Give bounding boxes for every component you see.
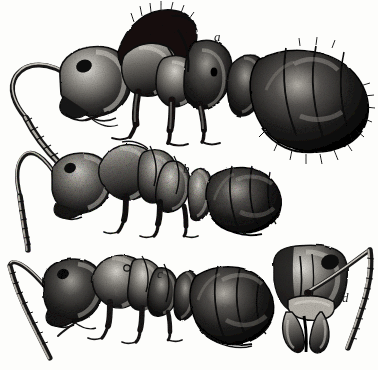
- figure-label-c: c: [157, 267, 163, 280]
- figure-label-b: b: [183, 162, 190, 175]
- ant-plate-drawing: [0, 0, 378, 370]
- illustration-plate: a b c d: [0, 0, 378, 370]
- figure-label-d: d: [342, 291, 349, 304]
- figure-label-a: a: [214, 30, 221, 43]
- figure-d-mandibles: [283, 312, 329, 353]
